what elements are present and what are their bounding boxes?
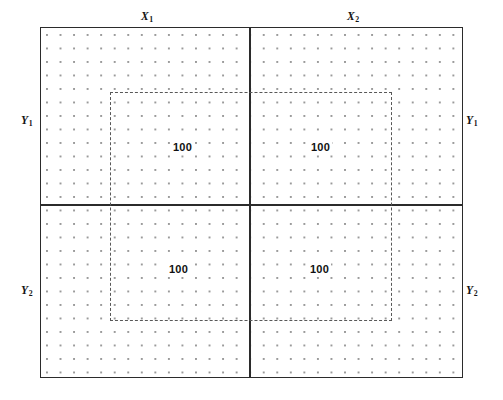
cell-value-x2-y2: 100 <box>308 263 331 276</box>
axis-label-y2-right: Y2 <box>466 285 477 297</box>
axis-label-y1-right: Y1 <box>466 115 477 127</box>
cell-value-x1-y2: 100 <box>167 263 190 276</box>
dashed-overlay-rectangle <box>110 92 392 321</box>
axis-label-y1-right-text: Y <box>466 114 473 126</box>
axis-label-y2-left-subscript: 2 <box>29 289 33 298</box>
axis-label-x1-subscript: 1 <box>149 15 153 24</box>
axis-label-x1: X1 <box>141 11 153 23</box>
axis-label-y2-right-text: Y <box>466 284 473 296</box>
axis-label-y1-right-subscript: 1 <box>474 119 478 128</box>
axis-label-y1-left-text: Y <box>21 114 28 126</box>
axis-label-y1-left: Y1 <box>21 115 32 127</box>
cell-value-x1-y1: 100 <box>171 141 194 154</box>
cell-value-x2-y1: 100 <box>309 141 332 154</box>
axis-label-x1-text: X <box>141 10 149 22</box>
axis-label-y2-left-text: Y <box>21 284 28 296</box>
axis-label-x2: X2 <box>347 11 359 23</box>
axis-label-x2-subscript: 2 <box>355 15 359 24</box>
axis-label-y2-left: Y2 <box>21 285 32 297</box>
axis-label-x2-text: X <box>347 10 355 22</box>
axis-label-y2-right-subscript: 2 <box>474 289 478 298</box>
factorial-grid-figure: X1 X2 Y1 Y2 Y1 Y2 100 100 100 100 <box>0 0 503 400</box>
axis-label-y1-left-subscript: 1 <box>29 119 33 128</box>
